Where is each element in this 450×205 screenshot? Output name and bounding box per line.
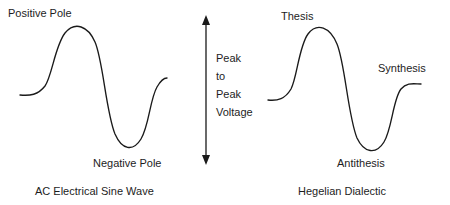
diagram-canvas: Positive Pole Negative Pole AC Electrica… <box>0 0 450 205</box>
label-thesis: Thesis <box>281 10 314 22</box>
left-diagram-group: Positive Pole Negative Pole AC Electrica… <box>8 7 167 197</box>
hegelian-dialectic-wave-path <box>268 27 421 150</box>
right-diagram-group: Thesis Antithesis Synthesis Hegelian Dia… <box>268 10 426 197</box>
arrow-down-head-icon <box>202 155 210 165</box>
measure-label-line-3: Peak <box>216 88 242 100</box>
caption-ac-electrical-sine-wave: AC Electrical Sine Wave <box>35 185 154 197</box>
label-synthesis: Synthesis <box>378 62 426 74</box>
sine-wave-comparison-figure: Positive Pole Negative Pole AC Electrica… <box>0 0 450 205</box>
arrow-up-head-icon <box>202 15 210 25</box>
measure-label-line-2: to <box>216 70 225 82</box>
caption-hegelian-dialectic: Hegelian Dialectic <box>298 185 387 197</box>
peak-to-peak-measure-group: Peak to Peak Voltage <box>202 15 253 165</box>
measure-label-line-4: Voltage <box>216 106 253 118</box>
measure-label-line-1: Peak <box>216 52 242 64</box>
ac-sine-wave-path <box>20 26 167 147</box>
label-negative-pole: Negative Pole <box>93 157 162 169</box>
label-antithesis: Antithesis <box>337 157 385 169</box>
label-positive-pole: Positive Pole <box>8 7 72 19</box>
